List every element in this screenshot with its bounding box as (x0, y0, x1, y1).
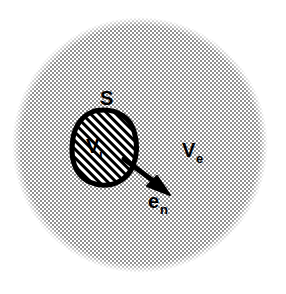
label-surface: S (100, 87, 113, 109)
label-normal-vector-subscript: n (160, 202, 168, 217)
label-internal-volume: V (86, 135, 100, 157)
figure-canvas: S V i V e e n (0, 0, 286, 294)
label-external-volume: V (182, 139, 196, 161)
label-normal-vector: e (148, 190, 159, 212)
outer-region-circle (12, 17, 268, 273)
outer-region-group (12, 17, 268, 273)
label-external-volume-subscript: e (196, 151, 203, 166)
label-internal-volume-subscript: i (99, 147, 103, 162)
diagram-svg: S V i V e e n (0, 0, 286, 294)
